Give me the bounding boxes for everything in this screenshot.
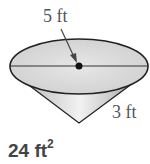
center-dot (76, 63, 83, 70)
answer-value: 24 ft (8, 140, 47, 161)
cone-figure: 5 ft 3 ft 24 ft2 (0, 0, 150, 164)
answer-exponent: 2 (47, 137, 54, 151)
diameter-label: 5 ft (43, 6, 68, 26)
answer-text: 24 ft2 (8, 140, 54, 160)
height-label: 3 ft (112, 102, 137, 122)
